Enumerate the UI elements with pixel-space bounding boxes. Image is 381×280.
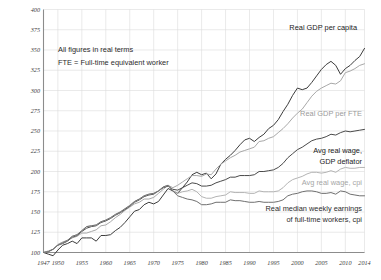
y-tick-label: 375 <box>30 26 40 33</box>
series-label: Real median weekly earnings <box>265 204 362 213</box>
series-label: Avg real wage, <box>313 146 362 155</box>
annotation-text: All figures in real terms <box>58 45 133 54</box>
y-tick-label: 325 <box>30 66 40 73</box>
y-tick-label: 200 <box>31 168 41 175</box>
x-tick-label: 2000 <box>291 259 304 266</box>
x-tick-label: 2014 <box>358 259 370 266</box>
y-tick-label: 400 <box>31 6 41 13</box>
x-tick-label: 1960 <box>100 259 113 266</box>
y-tick-label: 175 <box>31 188 40 195</box>
y-tick-label: 100 <box>31 249 41 256</box>
series-label: Avg real wage, cpi <box>302 178 363 187</box>
line-chart: 100125150175200225250275300325350375400 … <box>0 0 381 280</box>
x-tick-label: 1947 <box>37 259 50 266</box>
x-tick-label: 1955 <box>76 259 88 266</box>
y-tick-label: 150 <box>31 208 41 215</box>
chart-container: 100125150175200225250275300325350375400 … <box>0 0 381 280</box>
y-tick-label: 350 <box>30 46 41 53</box>
x-tick-label: 1985 <box>219 259 231 266</box>
series-label: Real GDP per capita <box>289 23 358 32</box>
annotation-text: FTE = Full-time equivalent worker <box>58 58 169 67</box>
x-tick-label: 1970 <box>148 259 161 266</box>
x-tick-label: 2010 <box>339 259 352 266</box>
y-tick-label: 225 <box>31 147 40 154</box>
x-tick-label: 1950 <box>52 259 65 266</box>
x-tick-label: 1965 <box>124 259 136 266</box>
x-tick-label: 2005 <box>315 259 327 266</box>
series-label: GDP deflator <box>319 157 362 166</box>
y-tick-label: 300 <box>30 87 41 94</box>
y-tick-label: 125 <box>31 228 40 235</box>
x-axis-tick-labels: 1947195019551960196519701975198019851990… <box>37 259 370 266</box>
chart-background <box>0 0 381 280</box>
series-label: Real GDP per FTE <box>300 109 362 118</box>
x-tick-label: 1990 <box>243 259 256 266</box>
x-tick-label: 1975 <box>171 259 183 266</box>
x-tick-label: 1980 <box>195 259 208 266</box>
y-tick-label: 250 <box>31 127 41 134</box>
x-tick-label: 1995 <box>267 259 279 266</box>
y-tick-label: 275 <box>31 107 40 114</box>
series-label: of full-time workers, cpi <box>286 215 362 224</box>
